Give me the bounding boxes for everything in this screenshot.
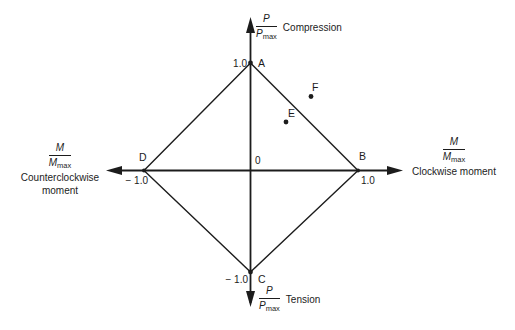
y-axis-bottom-arrowhead <box>246 291 255 307</box>
clockwise-caption: Clockwise moment <box>403 167 505 178</box>
point-label-e: E <box>288 108 295 120</box>
y-axis-top-arrowhead <box>246 17 255 33</box>
tension-caption: Tension <box>286 294 320 305</box>
compression-caption: Compression <box>283 22 342 33</box>
x-axis-right-arrowhead <box>387 166 403 175</box>
x-axis-negative-label: M Mmax Counterclockwise moment <box>10 143 110 197</box>
vertex-dot-c <box>248 270 253 275</box>
vertex-dot-a <box>248 61 253 66</box>
vertex-label-c: C <box>258 274 266 286</box>
fraction-numerator: P <box>256 14 277 27</box>
fraction-numerator: P <box>259 286 280 299</box>
fraction-denominator: Pmax <box>259 299 280 313</box>
interaction-diagram: P Pmax Compression P Pmax Tension M Mmax… <box>0 0 515 330</box>
p-over-pmax-fraction-bottom: P Pmax <box>259 286 280 313</box>
tick-label-top: 1.0 <box>224 58 247 69</box>
vertex-label-a: A <box>258 58 265 70</box>
counterclockwise-caption-line1: Counterclockwise <box>10 173 110 184</box>
point-label-f: F <box>312 82 318 94</box>
tick-label-left: − 1.0 <box>112 175 148 186</box>
point-dot-f <box>309 94 314 99</box>
counterclockwise-caption-line2: moment <box>10 186 110 197</box>
fraction-numerator: M <box>49 143 72 156</box>
vertex-dot-d <box>142 169 146 173</box>
point-dot-e <box>284 120 289 125</box>
fraction-denominator: Mmax <box>443 150 466 164</box>
vertex-label-d: D <box>139 152 147 164</box>
fraction-numerator: M <box>443 137 466 150</box>
y-axis-positive-label: P Pmax Compression <box>256 14 342 41</box>
vertex-dot-b <box>356 169 360 173</box>
m-over-mmax-fraction-right: M Mmax <box>443 137 466 164</box>
fraction-denominator: Mmax <box>49 156 72 170</box>
fraction-denominator: Pmax <box>256 27 277 41</box>
x-axis-positive-label: M Mmax Clockwise moment <box>403 137 505 177</box>
tick-label-bottom: − 1.0 <box>212 274 248 285</box>
y-axis-negative-label: P Pmax Tension <box>259 286 320 313</box>
tick-label-right: 1.0 <box>361 175 375 186</box>
origin-label: 0 <box>255 155 261 166</box>
vertex-label-b: B <box>359 151 366 163</box>
m-over-mmax-fraction-left: M Mmax <box>49 143 72 170</box>
p-over-pmax-fraction-top: P Pmax <box>256 14 277 41</box>
